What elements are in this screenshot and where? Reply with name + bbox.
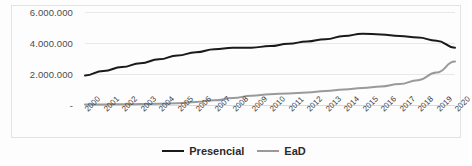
chart-legend: PresencialEaD: [0, 140, 468, 162]
y-tick-label: 6.000.000: [30, 7, 73, 18]
y-tick-label: -: [70, 100, 73, 111]
legend-label: EaD: [284, 145, 305, 157]
y-axis: -2.000.0004.000.0006.000.000: [0, 0, 85, 120]
series-line-presencial: [85, 34, 455, 76]
legend-label: Presencial: [189, 145, 244, 157]
x-axis: 2000200120022003200420052006200720082009…: [85, 107, 455, 139]
y-tick-label: 4.000.000: [30, 38, 73, 49]
series-layer: [85, 12, 455, 105]
legend-line-icon: [162, 150, 184, 153]
y-tick-label: 2.000.000: [30, 69, 73, 80]
plot-area: [85, 12, 455, 105]
legend-item-ead[interactable]: EaD: [257, 145, 305, 157]
legend-item-presencial[interactable]: Presencial: [162, 145, 244, 157]
legend-line-icon: [257, 150, 279, 153]
series-line-ead: [85, 62, 455, 105]
